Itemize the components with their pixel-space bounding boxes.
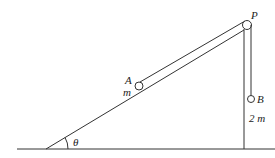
block-a xyxy=(135,82,143,90)
rope-incline xyxy=(140,21,245,82)
label-p: P xyxy=(250,9,258,21)
label-b: B xyxy=(257,93,264,105)
incline-pulley-diagram: P A m B 2 m θ xyxy=(0,0,275,158)
label-a: A xyxy=(124,74,132,86)
incline-surface xyxy=(46,30,244,149)
label-mass-a: m xyxy=(123,86,131,98)
label-mass-b: 2 m xyxy=(249,112,265,124)
pulley-p xyxy=(243,21,252,30)
label-theta: θ xyxy=(73,136,79,148)
angle-arc xyxy=(65,138,68,150)
block-b xyxy=(248,96,255,103)
